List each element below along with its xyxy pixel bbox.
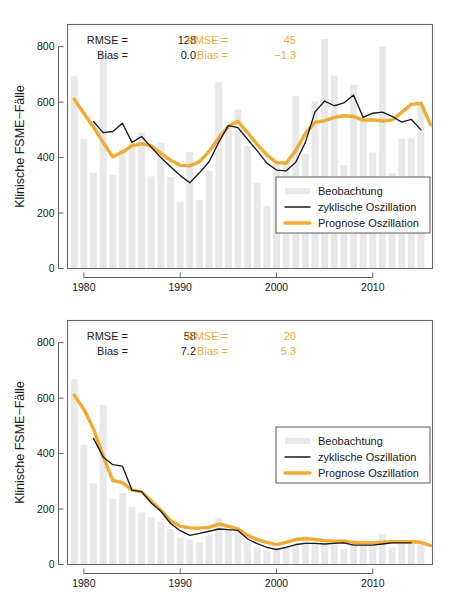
y-tick-label: 400 [37, 151, 55, 163]
y-axis-title: Klinische FSME−Fälle [13, 85, 27, 208]
legend-label: Beobachtung [318, 185, 383, 197]
observation-bar [244, 146, 251, 269]
observation-bar [109, 499, 116, 564]
observation-bar [90, 484, 97, 565]
legend-bottom: Beobachtungzyklische OszillationPrognose… [276, 427, 430, 483]
observation-bars-top [71, 39, 425, 269]
y-tick-label: 0 [49, 558, 55, 570]
stat-rmse-label-orange: RMSE = [187, 330, 228, 342]
y-tick-label: 200 [37, 207, 55, 219]
y-tick-label: 600 [37, 96, 55, 108]
observation-bar [129, 507, 136, 565]
observation-bar [186, 540, 193, 565]
observation-bar [177, 202, 184, 268]
observation-bar [398, 542, 405, 565]
observation-bar [138, 133, 145, 269]
observation-bar [234, 531, 241, 565]
legend-label: Prognose Oszillation [318, 217, 419, 229]
observation-bar [273, 548, 280, 565]
observation-bar [80, 139, 87, 269]
observation-bar [80, 444, 87, 564]
stat-bias-value-orange: −1.3 [274, 49, 296, 61]
stat-bias-label-black: Bias = [97, 345, 128, 357]
observation-bar [225, 528, 232, 564]
legend-swatch-observation [285, 188, 310, 194]
observation-bar [71, 379, 78, 564]
x-tick-label: 2000 [265, 577, 289, 589]
observation-bar [331, 545, 338, 565]
stat-rmse-label-black: RMSE = [87, 34, 128, 46]
observation-bar [100, 52, 107, 268]
observation-bar [254, 547, 261, 564]
y-tick-label: 800 [37, 40, 55, 52]
observation-bar [157, 522, 164, 565]
observation-bar [379, 47, 386, 269]
observation-bar [206, 535, 213, 564]
observation-bar [389, 547, 396, 564]
observation-bar [408, 543, 415, 565]
y-tick-label: 800 [37, 336, 55, 348]
observation-bar [196, 542, 203, 564]
observation-bar [138, 512, 145, 564]
observation-bar [206, 171, 213, 269]
observation-bar [148, 176, 155, 268]
chart-panel-top: 02004006008001980199020002010Klinische F… [0, 0, 458, 296]
observation-bar [234, 110, 241, 269]
legend-label: Prognose Oszillation [318, 467, 419, 479]
x-tick-label: 1990 [168, 577, 192, 589]
observation-bar [119, 493, 126, 565]
x-tick-label: 2010 [361, 577, 385, 589]
observation-bar [119, 149, 126, 268]
legend-label: zyklische Oszillation [318, 451, 416, 463]
stat-rmse-label-orange: RMSE = [187, 34, 228, 46]
legend-top: Beobachtungzyklische OszillationPrognose… [276, 177, 430, 233]
y-tick-label: 400 [37, 447, 55, 459]
observation-bar [100, 405, 107, 565]
chart-svg-bottom: 02004006008001980199020002010Klinische F… [0, 296, 458, 592]
observation-bar [225, 126, 232, 269]
x-tick-label: 2000 [265, 281, 289, 293]
observation-bar [244, 542, 251, 564]
y-tick-label: 0 [49, 262, 55, 274]
y-tick-label: 200 [37, 503, 55, 515]
stat-bias-label-orange: Bias = [197, 49, 228, 61]
observation-bar [157, 143, 164, 269]
figure-container: 02004006008001980199020002010Klinische F… [0, 0, 458, 592]
observation-bar [215, 82, 222, 268]
observation-bar [379, 534, 386, 565]
observation-bar [263, 206, 270, 268]
observation-bar [321, 543, 328, 565]
stat-rmse-label-black: RMSE = [87, 330, 128, 342]
legend-label: zyklische Oszillation [318, 201, 416, 213]
observation-bar [109, 175, 116, 269]
chart-panel-bottom: 02004006008001980199020002010Klinische F… [0, 296, 458, 592]
observation-bar [312, 542, 319, 564]
observation-bar [196, 200, 203, 268]
observation-bar [177, 538, 184, 565]
stat-rmse-value-orange: 45 [284, 34, 296, 46]
observation-bar [129, 143, 136, 268]
stat-rmse-value-orange: 20 [284, 330, 296, 342]
chart-svg-top: 02004006008001980199020002010Klinische F… [0, 0, 458, 296]
observation-bar [148, 517, 155, 564]
legend-swatch-observation [285, 438, 310, 444]
y-axis-title: Klinische FSME−Fälle [13, 381, 27, 504]
observation-bar [186, 152, 193, 268]
x-tick-label: 2010 [361, 281, 385, 293]
x-tick-label: 1990 [168, 281, 192, 293]
series-lines-top [74, 95, 430, 183]
x-tick-label: 1980 [72, 281, 96, 293]
stat-bias-label-orange: Bias = [197, 345, 228, 357]
observation-bar [369, 545, 376, 565]
observation-bar [417, 542, 424, 564]
stat-bias-value-black: 0.0 [181, 49, 196, 61]
x-tick-label: 1980 [72, 577, 96, 589]
observation-bar [254, 183, 261, 268]
stat-bias-value-orange: 5.3 [281, 345, 296, 357]
observation-bar [360, 546, 367, 565]
observation-bar [340, 549, 347, 564]
stat-bias-label-black: Bias = [97, 49, 128, 61]
observation-bar [263, 551, 270, 565]
observation-bar [90, 173, 97, 269]
observation-bar [321, 39, 328, 269]
